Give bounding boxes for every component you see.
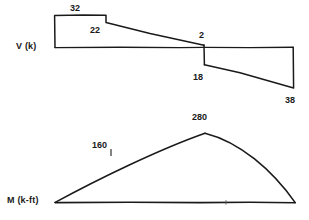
shear-axis-label: V (k) (16, 41, 37, 51)
figure-canvas: V (k) M (k-ft) 32 22 2 18 38 280 160 (0, 0, 309, 220)
moment-value-label-peak: 280 (192, 112, 207, 122)
moment-rising-branch (55, 133, 205, 202)
moment-zero-baseline (55, 202, 295, 203)
shear-positive-block (55, 15, 204, 48)
moment-value-label-intermediate: 160 (92, 140, 107, 150)
shear-value-label-start: 32 (70, 3, 80, 13)
shear-value-label-after-zero: 18 (193, 72, 203, 82)
moment-axis-label: M (k-ft) (7, 195, 39, 205)
shear-value-label-before-zero: 2 (199, 30, 204, 40)
shear-moment-diagram-graphic (0, 0, 309, 220)
shear-value-label-after-step: 22 (90, 25, 100, 35)
moment-falling-branch (205, 133, 295, 202)
shear-value-label-end: 38 (285, 95, 295, 105)
shear-negative-block (204, 47, 293, 88)
